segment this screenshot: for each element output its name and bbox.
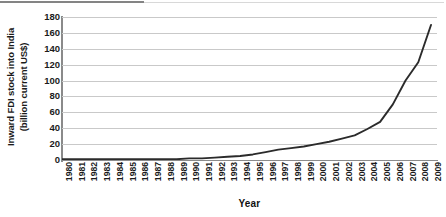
x-axis-tick-label: 2003 <box>358 162 367 196</box>
scan-artifact-line <box>0 1 144 3</box>
x-axis-tick-labels: 1980198119821983198419851986198719881989… <box>62 163 437 197</box>
x-axis-title: Year <box>62 198 437 209</box>
x-axis-tick-label: 2009 <box>434 162 443 196</box>
x-axis-tick-label: 1987 <box>154 162 163 196</box>
y-axis-tick-label: 0 <box>30 155 60 165</box>
x-axis-tick-label: 2006 <box>396 162 405 196</box>
x-axis-tick-label: 1992 <box>218 162 227 196</box>
x-axis-tick-label: 1995 <box>256 162 265 196</box>
y-axis-tick-labels: 020406080100120140160180 <box>30 10 60 162</box>
y-axis-tick-label: 100 <box>30 76 60 86</box>
y-axis-tick-label: 120 <box>30 60 60 70</box>
scan-artifact-line-faint <box>144 2 444 3</box>
x-axis-tick-label: 1981 <box>78 162 87 196</box>
y-axis-tick-label: 60 <box>30 107 60 117</box>
x-axis-tick-label: 2004 <box>370 162 379 196</box>
y-axis-tick-label: 160 <box>30 28 60 38</box>
x-axis-tick-label: 2002 <box>345 162 354 196</box>
x-axis-tick-label: 1982 <box>90 162 99 196</box>
x-axis-tick-label: 1999 <box>307 162 316 196</box>
y-axis-tick-label: 140 <box>30 44 60 54</box>
x-axis-tick-label: 1986 <box>141 162 150 196</box>
x-axis-tick-label: 1990 <box>192 162 201 196</box>
x-axis-tick-label: 1997 <box>281 162 290 196</box>
x-axis-tick-label: 2000 <box>319 162 328 196</box>
plot-area <box>62 17 437 160</box>
x-axis-tick-label: 1991 <box>205 162 214 196</box>
y-axis-tick-label: 80 <box>30 91 60 101</box>
y-axis-title-line2: (billion current US$) <box>17 8 30 166</box>
line-chart-svg <box>62 17 437 160</box>
x-axis-tick-label: 1994 <box>243 162 252 196</box>
x-axis-tick-label: 1989 <box>180 162 189 196</box>
x-axis-tick-label: 2008 <box>421 162 430 196</box>
x-axis-tick-label: 1983 <box>103 162 112 196</box>
x-axis-tick-label: 1985 <box>129 162 138 196</box>
y-axis-tick-label: 180 <box>30 12 60 22</box>
x-axis-tick-label: 1980 <box>65 162 74 196</box>
x-axis-tick-label: 1993 <box>230 162 239 196</box>
x-axis-tick-label: 1984 <box>116 162 125 196</box>
x-axis-tick-label: 1996 <box>269 162 278 196</box>
x-axis-tick-label: 1998 <box>294 162 303 196</box>
y-axis-title-line1: Inward FDI stock into India <box>4 8 17 166</box>
x-axis-line <box>61 160 438 161</box>
chart-screenshot: Inward FDI stock into India (billion cur… <box>0 0 446 217</box>
y-axis-title: Inward FDI stock into India (billion cur… <box>0 6 32 166</box>
x-axis-tick-label: 1988 <box>167 162 176 196</box>
y-axis-tick-label: 20 <box>30 139 60 149</box>
y-axis-tick-label: 40 <box>30 123 60 133</box>
x-axis-tick-label: 2007 <box>409 162 418 196</box>
x-axis-tick-label: 2005 <box>383 162 392 196</box>
x-axis-tick-label: 2001 <box>332 162 341 196</box>
